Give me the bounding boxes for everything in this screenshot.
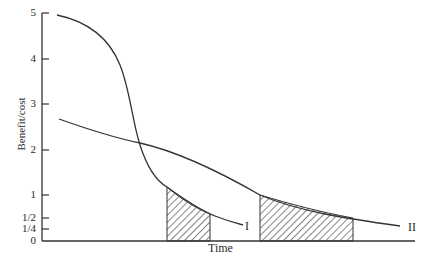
y-tick-5: 5 <box>14 7 36 18</box>
shaded-region-curve-2 <box>260 195 353 241</box>
y-tick-0: 0 <box>14 235 36 246</box>
curve-1-label: I <box>245 219 249 234</box>
y-tick-1: 1 <box>14 189 36 200</box>
y-tick-quarter: 1/4 <box>14 223 36 234</box>
curve-2 <box>59 119 400 226</box>
shaded-region-curve-1 <box>167 187 210 241</box>
y-tick-4: 4 <box>14 53 36 64</box>
x-axis-label: Time <box>208 241 233 256</box>
benefit-cost-chart <box>0 0 434 263</box>
curve-1 <box>57 15 243 225</box>
y-ticks <box>42 13 49 229</box>
y-axis-label: Benefit/cost <box>15 89 27 159</box>
curve-2-label: II <box>408 220 416 235</box>
